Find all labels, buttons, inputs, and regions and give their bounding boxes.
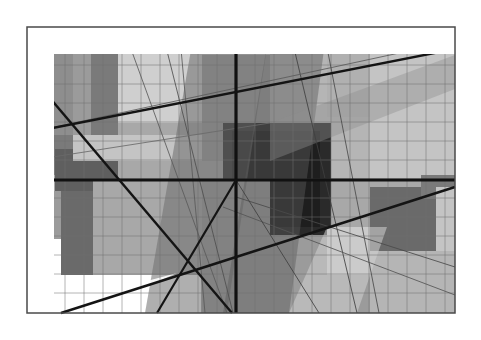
- artwork-canvas: [0, 0, 481, 340]
- color-field-lower-dark-column: [61, 191, 93, 275]
- artwork-interior: [27, 27, 455, 313]
- color-field-right-lower-light: [370, 251, 455, 313]
- color-field-far-right-column: [436, 187, 455, 251]
- artwork-frame: [27, 27, 455, 313]
- abstract-composition-svg: [0, 0, 481, 340]
